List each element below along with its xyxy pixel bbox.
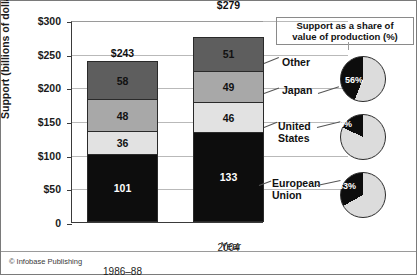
legend-label-united-states: United States bbox=[278, 121, 311, 144]
y-tick-label-250: $250 bbox=[38, 49, 61, 61]
pie-label-united-states: 18% bbox=[334, 119, 352, 129]
bar-total-1986-88: $243 bbox=[87, 47, 158, 59]
publisher-credit: © Infobase Publishing bbox=[9, 257, 82, 266]
ytick-mark-50 bbox=[67, 190, 72, 191]
bar-segment-japan-1986-88: 48 bbox=[87, 99, 158, 131]
bar-segment-united-states-1986-88: 36 bbox=[87, 131, 158, 155]
bar-segment-european-union-2004: 133 bbox=[193, 132, 264, 222]
ytick-mark-300 bbox=[67, 22, 72, 23]
bar-segment-other-1986-88: 58 bbox=[87, 61, 158, 100]
bar-segment-united-states-2004: 46 bbox=[193, 102, 264, 133]
y-tick-label-50: $50 bbox=[43, 183, 61, 195]
side-panel-title: Support as a share of value of productio… bbox=[276, 17, 414, 45]
bar-segment-other-2004: 51 bbox=[193, 37, 264, 71]
side-panel-title-line2: value of production (%) bbox=[292, 31, 398, 42]
ytick-mark-100 bbox=[67, 157, 72, 158]
y-tick-label-300: $300 bbox=[38, 15, 61, 27]
bar-1986-88: $243 58 48 36 101 1986–88 bbox=[87, 62, 158, 222]
ytick-mark-200 bbox=[67, 89, 72, 90]
y-tick-label-150: $150 bbox=[38, 116, 61, 128]
panel-tick-divider bbox=[348, 42, 349, 50]
side-panel-title-line1: Support as a share of bbox=[296, 20, 393, 31]
pie-label-japan: 56% bbox=[345, 75, 363, 85]
bar-total-2004: $279 bbox=[193, 0, 264, 11]
ytick-mark-250 bbox=[67, 56, 72, 57]
bar-segment-japan-2004: 49 bbox=[193, 71, 264, 104]
ytick-mark-0 bbox=[67, 224, 72, 225]
plot-area: $243 58 48 36 101 1986–88 $279 51 49 46 … bbox=[71, 21, 263, 223]
bar-segment-european-union-1986-88: 101 bbox=[87, 154, 158, 222]
pie-label-european-union: 33% bbox=[338, 181, 356, 191]
pie-chart-european-union bbox=[340, 172, 386, 218]
chart-figure: Support (billions of dollars) $243 58 48… bbox=[0, 0, 417, 275]
legend-label-japan: Japan bbox=[282, 85, 312, 97]
footer-divider bbox=[1, 251, 416, 252]
legend-label-european-union: European Union bbox=[272, 178, 320, 201]
bar-2004: $279 51 49 46 133 2004 bbox=[193, 38, 264, 222]
y-tick-label-200: $200 bbox=[38, 82, 61, 94]
leader-line-other bbox=[264, 57, 279, 64]
y-tick-label-100: $100 bbox=[38, 150, 61, 162]
y-tick-label-0: 0 bbox=[55, 217, 61, 229]
y-axis-title: Support (billions of dollars) bbox=[0, 0, 11, 119]
x-tick-1986-88: 1986–88 bbox=[87, 266, 158, 275]
ytick-mark-150 bbox=[67, 123, 72, 124]
legend-label-other: Other bbox=[282, 57, 310, 69]
